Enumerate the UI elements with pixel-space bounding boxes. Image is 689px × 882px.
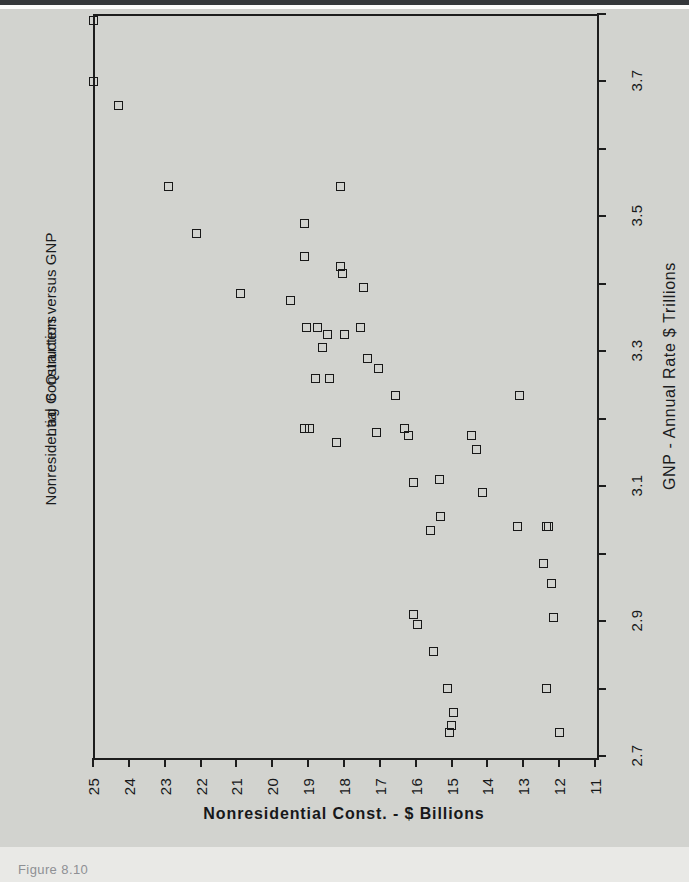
x-axis-tick-label: 22 (192, 767, 209, 807)
y-axis-tick-label: 3.7 (628, 58, 645, 104)
data-point (300, 219, 309, 228)
scatter-plot-area (93, 14, 595, 756)
data-point (409, 478, 418, 487)
page-margin-below (0, 847, 689, 882)
data-point (404, 431, 413, 440)
data-point (372, 428, 381, 437)
y-axis-title: GNP - Annual Rate $ Trillions (661, 246, 679, 506)
data-point (359, 283, 368, 292)
data-point (236, 289, 245, 298)
data-point (114, 101, 123, 110)
y-axis-tick (597, 80, 606, 82)
data-point (313, 323, 322, 332)
data-point (435, 475, 444, 484)
data-point (89, 77, 98, 86)
data-point (426, 526, 435, 535)
x-axis-tick-label: 24 (120, 767, 137, 807)
data-point (413, 620, 422, 629)
data-point (89, 16, 98, 25)
y-axis-tick (597, 148, 606, 150)
data-point (356, 323, 365, 332)
data-point (436, 512, 445, 521)
y-axis-tick (597, 350, 606, 352)
data-point (472, 445, 481, 454)
data-point (192, 229, 201, 238)
data-point (467, 431, 476, 440)
x-axis-tick-label: 19 (300, 767, 317, 807)
x-axis-tick-label: 20 (264, 767, 281, 807)
figure-page: 2524232221201918171615141312113.73.53.33… (0, 0, 689, 882)
data-point (443, 684, 452, 693)
x-axis-tick-label: 11 (587, 767, 604, 807)
y-axis-tick (597, 215, 606, 217)
y-axis-tick-label: 2.7 (628, 733, 645, 779)
data-point (325, 374, 334, 383)
x-axis-tick-label: 18 (336, 767, 353, 807)
data-point (300, 252, 309, 261)
x-axis-tick-label: 14 (479, 767, 496, 807)
data-point (305, 424, 314, 433)
data-point (338, 269, 347, 278)
data-point (336, 182, 345, 191)
chart-subtitle: Lag 6 Quarters (42, 286, 59, 466)
data-point (539, 559, 548, 568)
x-axis-tick-label: 13 (515, 767, 532, 807)
x-axis-tick-label: 12 (551, 767, 568, 807)
data-point (302, 323, 311, 332)
data-point (542, 684, 551, 693)
y-axis-tick-label: 3.3 (628, 328, 645, 374)
data-point (445, 728, 454, 737)
data-point (547, 579, 556, 588)
data-point (332, 438, 341, 447)
y-axis-tick-label: 3.1 (628, 463, 645, 509)
data-point (311, 374, 320, 383)
data-point (555, 728, 564, 737)
figure-caption: Figure 8.10 (18, 862, 88, 877)
data-point (323, 330, 332, 339)
data-point (409, 610, 418, 619)
data-point (542, 522, 551, 531)
y-axis-tick (597, 418, 606, 420)
data-point (515, 391, 524, 400)
x-axis-tick-label: 16 (407, 767, 424, 807)
data-point (429, 647, 438, 656)
y-axis-tick-label: 3.5 (628, 193, 645, 239)
data-point (549, 613, 558, 622)
y-axis-tick (597, 283, 606, 285)
y-axis-tick-label: 2.9 (628, 598, 645, 644)
x-axis-tick-label: 21 (228, 767, 245, 807)
data-point (164, 182, 173, 191)
x-axis-tick-label: 17 (371, 767, 388, 807)
y-axis-tick (597, 485, 606, 487)
data-point (374, 364, 383, 373)
data-point (340, 330, 349, 339)
data-point (513, 522, 522, 531)
x-axis-title: Nonresidential Const. - $ Billions (93, 805, 595, 823)
y-axis-tick (597, 755, 606, 757)
data-point (363, 354, 372, 363)
x-axis-tick-label: 15 (443, 767, 460, 807)
x-axis-tick-label: 25 (85, 767, 102, 807)
y-axis-tick (597, 620, 606, 622)
data-point (478, 488, 487, 497)
y-axis-tick (597, 688, 606, 690)
y-axis-tick (597, 13, 606, 15)
x-axis-tick-label: 23 (156, 767, 173, 807)
data-point (449, 708, 458, 717)
data-point (391, 391, 400, 400)
data-point (286, 296, 295, 305)
data-point (318, 343, 327, 352)
y-axis-tick (597, 553, 606, 555)
